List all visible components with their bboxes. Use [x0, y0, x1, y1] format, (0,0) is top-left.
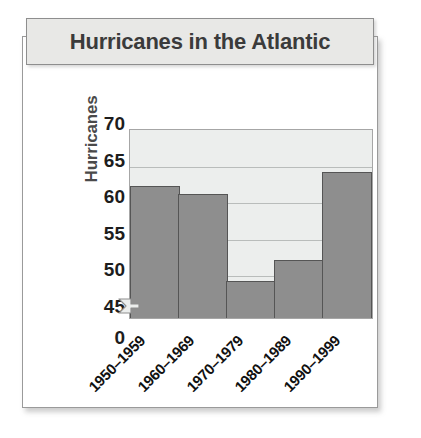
- axis-break-icon: [117, 295, 143, 317]
- chart-title-box: Hurricanes in the Atlantic: [26, 18, 374, 65]
- bar-series: [130, 130, 372, 318]
- y-axis-tick: 55: [81, 223, 125, 242]
- y-axis-tick: 70: [81, 114, 125, 133]
- bar: [322, 172, 372, 318]
- y-axis-tick: 50: [81, 260, 125, 279]
- bar: [178, 194, 228, 318]
- y-axis-tick: 0: [81, 328, 125, 347]
- page-title: Hurricanes in the Atlantic: [70, 29, 331, 55]
- y-axis-tick: 65: [81, 150, 125, 169]
- bar: [274, 260, 324, 318]
- y-axis-tick: 60: [81, 187, 125, 206]
- bar: [226, 281, 276, 318]
- chart-frame: Hurricanes 7065605550450 1950–19591960–1…: [22, 36, 378, 408]
- chart-page: Hurricanes 7065605550450 1950–19591960–1…: [0, 0, 421, 438]
- plot-area: [129, 129, 373, 319]
